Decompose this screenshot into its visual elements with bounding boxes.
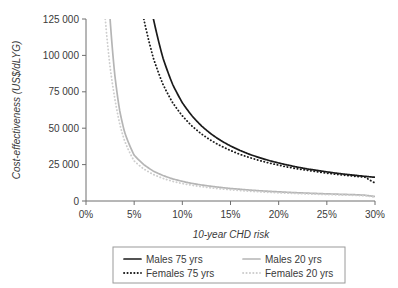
y-tick-label: 75 000: [48, 86, 79, 97]
x-tick-label: 30%: [365, 209, 385, 220]
x-tick-label: 20%: [269, 209, 289, 220]
y-axis-tick-labels: 025 00050 00075 000100 000125 000: [43, 14, 80, 207]
y-tick-label: 100 000: [43, 50, 80, 61]
x-tick-label: 10%: [172, 209, 192, 220]
data-series-group: [105, 19, 375, 197]
legend-label: Females 75 yrs: [146, 268, 214, 279]
chart-legend: Males 75 yrsMales 20 yrsFemales 75 yrsFe…: [113, 247, 345, 283]
x-axis-tick-labels: 0%5%10%15%20%25%30%: [79, 209, 385, 220]
legend-label: Males 20 yrs: [265, 254, 322, 265]
x-tick-label: 5%: [127, 209, 142, 220]
axis-lines: [82, 19, 375, 205]
cost-effectiveness-line-chart: Cost-effectiveness (US$/dLYG) 025 00050 …: [0, 0, 398, 288]
x-tick-label: 0%: [79, 209, 94, 220]
y-tick-label: 50 000: [48, 123, 79, 134]
y-tick-label: 0: [73, 196, 79, 207]
y-tick-label: 25 000: [48, 159, 79, 170]
x-tick-label: 15%: [220, 209, 240, 220]
x-axis-title: 10-year CHD risk: [193, 229, 271, 240]
y-tick-label: 125 000: [43, 14, 80, 25]
x-tick-label: 25%: [317, 209, 337, 220]
chart-figure: Cost-effectiveness (US$/dLYG) 025 00050 …: [0, 0, 398, 288]
series-line: [153, 19, 375, 177]
legend-label: Males 75 yrs: [146, 254, 203, 265]
legend-label: Females 20 yrs: [265, 268, 333, 279]
y-axis-title: Cost-effectiveness (US$/dLYG): [11, 41, 22, 180]
series-line: [105, 19, 375, 197]
